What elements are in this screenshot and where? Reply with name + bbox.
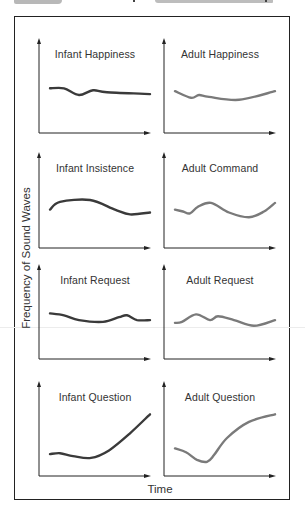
sound-wave-curve <box>175 314 275 325</box>
x-axis-arrow-icon <box>269 246 276 250</box>
y-axis-arrow-icon <box>162 38 166 44</box>
x-axis-arrow-icon <box>144 474 151 478</box>
panel-title: Adult Question <box>185 391 255 403</box>
panel-title: Infant Insistence <box>56 162 134 174</box>
sound-wave-curve <box>175 414 275 462</box>
panel-title: Infant Happiness <box>55 48 135 60</box>
sound-wave-curve <box>50 88 150 95</box>
x-axis-arrow-icon <box>269 474 276 478</box>
x-axis-arrow-icon <box>269 357 276 361</box>
sound-wave-curve <box>175 91 275 100</box>
y-axis-arrow-icon <box>37 152 41 158</box>
y-axis-arrow-icon <box>162 381 166 387</box>
x-axis-arrow-icon <box>144 131 151 135</box>
x-axis-arrow-icon <box>144 246 151 250</box>
sound-wave-panels <box>0 0 305 515</box>
sound-wave-curve <box>50 200 150 215</box>
y-axis-arrow-icon <box>162 264 166 270</box>
y-axis-label: Frequency of Sound Waves <box>20 187 32 328</box>
panel-title: Infant Question <box>59 391 132 403</box>
panel-title: Adult Request <box>186 274 253 286</box>
x-axis-arrow-icon <box>144 357 151 361</box>
sound-wave-curve <box>50 313 150 322</box>
panel-title: Infant Request <box>60 274 130 286</box>
panel-title: Adult Command <box>182 162 259 174</box>
y-axis-arrow-icon <box>162 152 166 158</box>
sound-wave-curve <box>50 414 150 458</box>
y-axis-arrow-icon <box>37 38 41 44</box>
sound-wave-curve <box>175 203 275 218</box>
x-axis-label: Time <box>147 483 172 495</box>
panel-title: Adult Happiness <box>181 48 259 60</box>
y-axis-arrow-icon <box>37 381 41 387</box>
y-axis-arrow-icon <box>37 264 41 270</box>
x-axis-arrow-icon <box>269 131 276 135</box>
